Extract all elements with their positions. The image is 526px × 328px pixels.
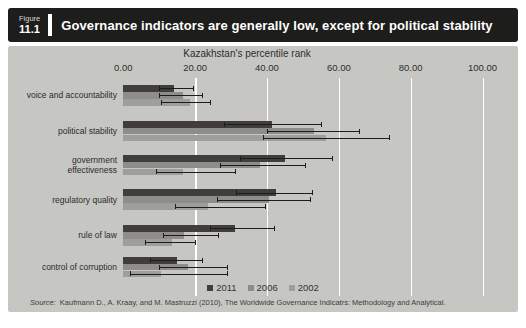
error-bar — [130, 274, 227, 275]
legend-label: 2011 — [216, 282, 236, 293]
error-bar-cap — [159, 86, 160, 91]
error-bar — [240, 158, 332, 159]
source-note: Source:Kaufmann D., A. Kraay, and M. Mas… — [30, 298, 445, 307]
legend-swatch — [248, 285, 254, 291]
error-bar-cap — [267, 129, 268, 134]
figure-page: Figure 11.1 Governance indicators are ge… — [0, 0, 526, 328]
category-label: voice and accountability — [8, 90, 117, 100]
category-label: regulatory quality — [8, 195, 117, 205]
error-bar-cap — [163, 233, 164, 238]
error-bar-cap — [236, 190, 237, 195]
source-label: Source: — [30, 298, 56, 307]
error-bar-cap — [312, 190, 313, 195]
error-bar-cap — [220, 163, 221, 168]
figure-header: Figure 11.1 Governance indicators are ge… — [8, 8, 518, 42]
error-bar — [236, 193, 311, 194]
error-bar — [150, 260, 202, 261]
error-bar-cap — [202, 93, 203, 98]
error-bar — [224, 124, 321, 125]
error-bar-cap — [145, 240, 146, 245]
error-bar-cap — [161, 100, 162, 105]
error-bar-cap — [274, 226, 275, 231]
error-bar-cap — [235, 169, 236, 174]
category-label: control of corruption — [8, 262, 117, 272]
error-bar-cap — [159, 93, 160, 98]
error-bar-cap — [156, 169, 157, 174]
error-bar-cap — [224, 122, 225, 127]
chart-title: Kazakhstan's percentile rank — [97, 48, 397, 59]
error-bar-cap — [227, 265, 228, 270]
error-bar-cap — [150, 258, 151, 263]
figure-label-word: Figure — [19, 15, 40, 23]
error-bar-cap — [193, 86, 194, 91]
source-text: Kaufmann D., A. Kraay, and M. Mastruzzi … — [60, 298, 446, 307]
error-bar — [210, 228, 275, 229]
legend-label: 2006 — [257, 282, 278, 293]
gridline — [195, 78, 197, 296]
header-divider — [48, 14, 52, 36]
error-bar-cap — [130, 271, 131, 276]
error-bar-cap — [389, 135, 390, 140]
gridline — [339, 78, 341, 296]
error-bar-cap — [218, 233, 219, 238]
gridline — [411, 78, 413, 296]
error-bar — [145, 242, 195, 243]
legend-item: 2011 — [207, 282, 236, 293]
error-bar-cap — [305, 163, 306, 168]
error-bar-cap — [263, 135, 264, 140]
error-bar-cap — [159, 265, 160, 270]
figure-number: 11.1 — [19, 24, 40, 35]
category-label: rule of law — [8, 230, 117, 240]
error-bar-cap — [175, 204, 176, 209]
figure-label: Figure 11.1 — [8, 15, 40, 36]
legend-label: 2002 — [298, 282, 319, 293]
error-bar-cap — [310, 197, 311, 202]
gridline — [267, 78, 269, 296]
legend-item: 2002 — [289, 282, 319, 293]
error-bar-cap — [332, 156, 333, 161]
error-bar-cap — [202, 258, 203, 263]
error-bar — [175, 207, 265, 208]
x-tick-label: 20.00 — [183, 62, 207, 73]
error-bar — [267, 131, 359, 132]
error-bar-cap — [210, 100, 211, 105]
gridline — [483, 78, 485, 296]
error-bar-cap — [359, 129, 360, 134]
x-tick-label: 40.00 — [255, 62, 279, 73]
x-tick-label: 60.00 — [327, 62, 351, 73]
error-bar-cap — [240, 156, 241, 161]
error-bar-cap — [195, 240, 196, 245]
error-bar — [159, 267, 227, 268]
error-bar — [161, 102, 209, 103]
error-bar — [263, 138, 389, 139]
x-tick-label: 80.00 — [399, 62, 423, 73]
legend-item: 2006 — [248, 282, 278, 293]
x-tick-label: 100.00 — [468, 62, 497, 73]
error-bar-cap — [321, 122, 322, 127]
category-label: government effectiveness — [8, 155, 117, 175]
error-bar — [159, 95, 202, 96]
error-bar — [156, 172, 235, 173]
error-bar-cap — [210, 226, 211, 231]
category-label: political stability — [8, 126, 117, 136]
error-bar-cap — [265, 204, 266, 209]
legend-swatch — [207, 285, 213, 291]
error-bar-cap — [217, 197, 218, 202]
error-bar — [159, 88, 193, 89]
error-bar — [220, 165, 304, 166]
error-bar — [163, 235, 219, 236]
error-bar — [217, 200, 310, 201]
x-tick-label: 0.00 — [114, 62, 133, 73]
chart-area: Kazakhstan's percentile rank 0.0020.0040… — [8, 46, 518, 312]
legend: 201120062002 — [8, 282, 518, 293]
error-bar-cap — [227, 271, 228, 276]
legend-swatch — [289, 285, 295, 291]
figure-title: Governance indicators are generally low,… — [61, 18, 492, 33]
